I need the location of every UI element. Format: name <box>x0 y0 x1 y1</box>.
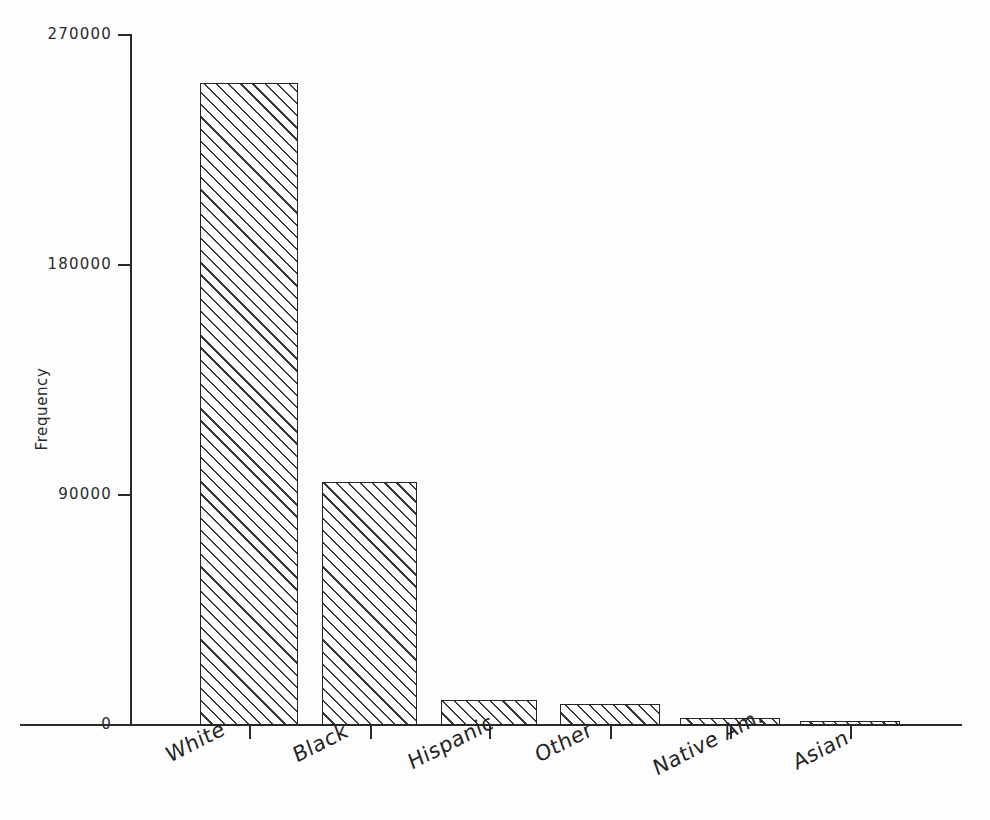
x-tick-mark <box>249 726 251 739</box>
y-tick-mark <box>118 34 130 36</box>
x-category-label-asian: Asian <box>790 725 852 775</box>
x-category-label-native-am: Native Am. <box>650 703 766 781</box>
y-tick-label: 270000 <box>48 25 112 43</box>
y-tick-label: 90000 <box>58 485 112 503</box>
bar-white <box>200 83 298 725</box>
y-tick-mark <box>118 494 130 496</box>
bar-chart: Frequency 270000 180000 90000 0 White Bl… <box>0 0 990 820</box>
bar-black <box>322 482 417 725</box>
x-tick-mark <box>850 726 852 739</box>
y-axis-title: Frequency <box>33 349 51 469</box>
y-tick-mark <box>118 264 130 266</box>
y-axis-line <box>130 34 132 726</box>
x-tick-mark <box>610 726 612 739</box>
bar-asian <box>800 721 900 725</box>
x-tick-mark <box>370 726 372 739</box>
y-tick-label: 0 <box>101 715 112 733</box>
y-tick-mark <box>118 724 130 726</box>
y-tick-label: 180000 <box>48 255 112 273</box>
